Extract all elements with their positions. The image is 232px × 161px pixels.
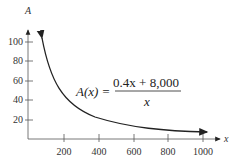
svg-text:60: 60: [13, 75, 23, 86]
svg-text:A(x) =: A(x) =: [75, 84, 110, 99]
y-axis-label: A: [24, 5, 32, 16]
svg-text:40: 40: [13, 94, 23, 105]
x-ticks: 200 400 600 800 1000: [57, 134, 214, 157]
svg-text:20: 20: [13, 114, 23, 125]
svg-text:200: 200: [57, 146, 72, 157]
svg-text:800: 800: [161, 146, 176, 157]
svg-text:100: 100: [8, 36, 23, 47]
equation-annotation: A(x) = 0.4x + 8,000 x: [75, 75, 181, 109]
chart: A x 100 80 60 40 20 200 400 600 800 1000…: [0, 0, 232, 161]
svg-text:1000: 1000: [193, 146, 213, 157]
svg-text:400: 400: [92, 146, 107, 157]
svg-text:0.4x + 8,000: 0.4x + 8,000: [113, 75, 179, 90]
x-axis-label: x: [223, 133, 229, 144]
svg-text:80: 80: [13, 55, 23, 66]
svg-text:600: 600: [127, 146, 142, 157]
y-ticks: 100 80 60 40 20: [8, 36, 33, 125]
svg-text:x: x: [143, 94, 150, 109]
